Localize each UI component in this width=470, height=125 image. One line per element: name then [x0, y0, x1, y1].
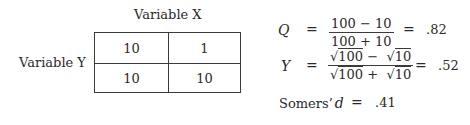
- y-result: .52: [438, 58, 459, 73]
- q-symbol: Q: [278, 22, 289, 38]
- column-variable-text: Variable X: [134, 7, 202, 22]
- y-numerator: √100 − √10: [328, 49, 413, 64]
- somers-equals: =: [351, 94, 363, 110]
- row-variable-text: Variable Y: [19, 55, 86, 70]
- q-equals: =: [306, 21, 318, 37]
- table-cell-r1c1: 10: [95, 33, 168, 63]
- somers-result: .41: [375, 95, 396, 110]
- q-denominator: 100 + 10: [329, 34, 394, 49]
- q-fraction-bar: [329, 32, 394, 33]
- radicand: 100: [338, 66, 363, 82]
- y-result-equals: =: [415, 57, 427, 73]
- q-result-equals: =: [403, 21, 415, 37]
- numerator-operator: −: [367, 49, 378, 64]
- sqrt-icon: √: [386, 49, 394, 64]
- sqrt-10-denominator: √10: [386, 67, 411, 82]
- y-symbol: Y: [281, 58, 290, 74]
- y-fraction: √100 − √10 √100 + √10: [328, 49, 413, 82]
- somers-label: Somers’: [279, 96, 333, 111]
- radicand: 100: [338, 48, 363, 64]
- table-cell-r1c2: 1: [168, 33, 241, 63]
- sqrt-100-denominator: √100: [330, 67, 363, 82]
- y-equals: =: [306, 57, 318, 73]
- q-result: .82: [426, 22, 447, 37]
- row-variable-label: Variable Y: [19, 55, 86, 70]
- radicand: 10: [395, 48, 412, 64]
- table-cell-r2c2: 10: [168, 63, 241, 93]
- q-fraction: 100 − 10 100 + 10: [329, 16, 394, 49]
- radicand: 10: [395, 66, 412, 82]
- denominator-operator: +: [367, 67, 378, 82]
- y-denominator: √100 + √10: [328, 67, 413, 82]
- contingency-table: 10 1 10 10: [94, 32, 241, 93]
- table-cell-r2c1: 10: [95, 63, 168, 93]
- somers-d-label: Somers’d: [279, 95, 344, 111]
- q-numerator: 100 − 10: [329, 16, 394, 31]
- sqrt-icon: √: [386, 67, 394, 82]
- column-variable-label: Variable X: [134, 7, 202, 22]
- sqrt-100-numerator: √100: [330, 49, 363, 64]
- somers-symbol: d: [335, 95, 344, 111]
- sqrt-10-numerator: √10: [386, 49, 411, 64]
